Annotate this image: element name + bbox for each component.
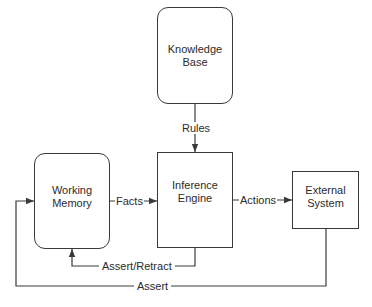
inference-engine-label-line2: Engine [172,192,218,205]
knowledge-base-label-line2: Base [168,56,222,69]
assert-label: Assert [134,280,171,292]
external-system-label-line1: External [305,184,345,197]
facts-label: Facts [115,195,144,207]
inference-engine-label-line1: Inference [172,179,218,192]
actions-label: Actions [239,194,277,206]
working-memory-label-line2: Memory [52,197,92,210]
working-memory-label-line1: Working [52,184,92,197]
knowledge-base-node: Knowledge Base [157,7,233,104]
external-system-label-line2: System [305,197,345,210]
inference-engine-node: Inference Engine [157,152,233,248]
working-memory-node: Working Memory [34,153,110,249]
knowledge-base-label-line1: Knowledge [168,43,222,56]
assert-retract-label: Assert/Retract [99,260,175,272]
rules-label: Rules [181,122,211,134]
external-system-node: External System [292,171,359,229]
